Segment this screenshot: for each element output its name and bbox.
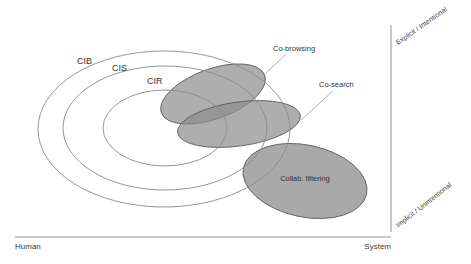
co-browsing-leader — [265, 54, 286, 74]
co-search-label: Co-search — [319, 80, 354, 89]
cis-label: CIS — [112, 63, 127, 73]
regions — [153, 52, 374, 230]
collaborative-information-diagram: CIB CIS CIR Co-browsing Co-search Collab… — [0, 0, 471, 264]
co-search-leader — [301, 91, 333, 120]
cir-label: CIR — [147, 76, 163, 86]
system-axis-label: System — [364, 242, 391, 251]
collab-filtering-label: Collab. filtering — [280, 174, 330, 183]
implicit-unintentional-label: Implicit / Unintentional — [394, 181, 453, 230]
explicit-intentional-label: Explicit / Intentional — [395, 5, 449, 46]
co-browsing-label: Co-browsing — [273, 44, 315, 53]
cib-label: CIB — [77, 56, 92, 66]
human-axis-label: Human — [15, 242, 41, 251]
